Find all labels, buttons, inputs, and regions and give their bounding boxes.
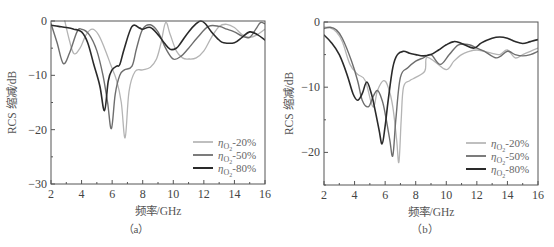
x-tick-label: 6 — [109, 187, 115, 201]
series-group — [51, 21, 265, 138]
panel-a-label: （a） — [116, 220, 156, 236]
legend-entry-3: ηO2-80% — [491, 163, 529, 179]
x-axis-title: 频率/GHz — [135, 204, 182, 217]
y-tick-label: −10 — [28, 68, 47, 82]
x-tick-label: 2 — [48, 187, 54, 201]
y-tick-label: −20 — [301, 145, 320, 159]
y-tick-label: −30 — [28, 177, 47, 191]
legend-entry-3: ηO2-80% — [218, 162, 256, 178]
y-tick-label: −20 — [28, 123, 47, 137]
y-tick-label: 0 — [314, 15, 320, 29]
x-axis-title: 频率/GHz — [408, 205, 455, 218]
panel-b-label: （b） — [405, 220, 445, 236]
x-tick-label: 16 — [532, 188, 544, 202]
x-tick-label: 14 — [501, 188, 513, 202]
legend: ηO2-20%ηO2-50%ηO2-80% — [193, 136, 256, 178]
x-tick-label: 8 — [413, 188, 419, 202]
chart-panel-b: 2468101214160−10−20频率/GHzRCS 缩减/dBηO2-20… — [277, 0, 554, 247]
chart-panel-a: 2468101214160−10−20−30频率/GHzRCS 缩减/dBηO2… — [0, 0, 277, 247]
y-axis-title: RCS 缩减/dB — [282, 72, 295, 136]
series-line-3 — [51, 21, 265, 111]
x-tick-label: 4 — [79, 187, 85, 201]
y-axis-title: RCS 缩减/dB — [5, 71, 18, 135]
series-line-1 — [65, 21, 265, 138]
figure-caption-cutoff — [0, 238, 554, 247]
chart-b-svg: 2468101214160−10−20频率/GHzRCS 缩减/dBηO2-20… — [277, 0, 554, 247]
x-tick-label: 2 — [321, 188, 327, 202]
y-tick-label: −10 — [301, 80, 320, 94]
legend: ηO2-20%ηO2-50%ηO2-80% — [466, 137, 529, 179]
chart-a-svg: 2468101214160−10−20−30频率/GHzRCS 缩减/dBηO2… — [0, 0, 277, 247]
x-tick-label: 4 — [352, 188, 358, 202]
x-tick-label: 12 — [198, 187, 210, 201]
x-tick-label: 10 — [440, 188, 452, 202]
x-tick-label: 12 — [471, 188, 483, 202]
x-tick-label: 14 — [228, 187, 240, 201]
series-line-2 — [51, 22, 265, 128]
x-tick-label: 8 — [140, 187, 146, 201]
x-tick-label: 10 — [167, 187, 179, 201]
x-tick-label: 16 — [259, 187, 271, 201]
x-tick-label: 6 — [382, 188, 388, 202]
y-tick-label: 0 — [41, 14, 47, 28]
